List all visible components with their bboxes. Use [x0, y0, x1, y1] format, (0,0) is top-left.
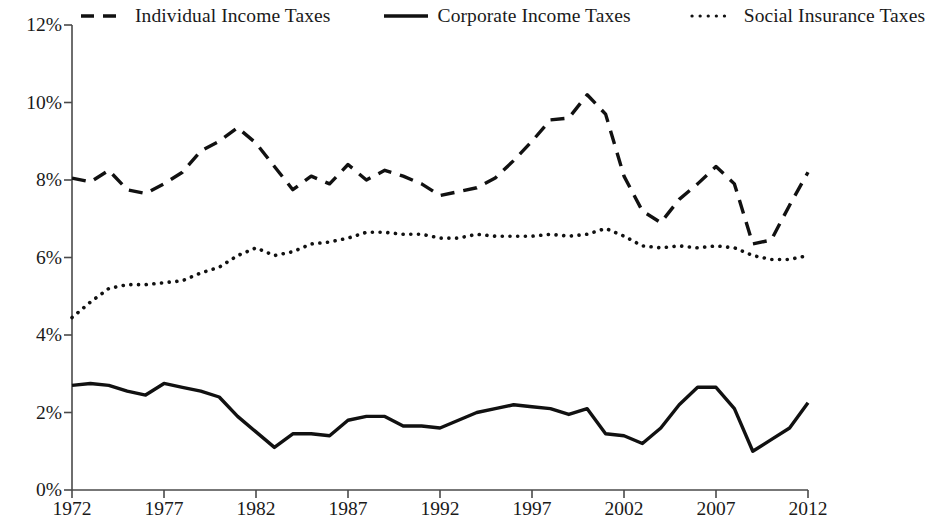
- y-axis-label-0pct: 0%: [6, 480, 62, 500]
- y-axis-label-4pct: 4%: [6, 325, 62, 345]
- x-axis-label-2012: 2012: [773, 499, 843, 519]
- x-axis-label-1992: 1992: [405, 499, 475, 519]
- series-line-individual-income-taxes: [72, 95, 808, 244]
- x-axis-label-1987: 1987: [313, 499, 383, 519]
- x-axis-label-1972: 1972: [37, 499, 107, 519]
- x-axis-label-1997: 1997: [497, 499, 567, 519]
- series-line-corporate-income-taxes: [72, 383, 808, 451]
- y-axis-label-2pct: 2%: [6, 403, 62, 423]
- x-axis-tick-labels: 197219771982198719921997200220072012: [0, 499, 838, 527]
- y-axis-label-12pct: 12%: [6, 15, 62, 35]
- x-axis-label-2007: 2007: [681, 499, 751, 519]
- series-line-social-insurance-taxes: [72, 228, 808, 317]
- y-axis-label-6pct: 6%: [6, 248, 62, 268]
- x-axis-label-2002: 2002: [589, 499, 659, 519]
- x-axis-label-1977: 1977: [129, 499, 199, 519]
- x-axis-label-1982: 1982: [221, 499, 291, 519]
- y-axis-label-8pct: 8%: [6, 170, 62, 190]
- y-axis-label-10pct: 10%: [6, 93, 62, 113]
- y-axis-tick-labels: 12%10%8%6%4%2%0%: [0, 0, 62, 529]
